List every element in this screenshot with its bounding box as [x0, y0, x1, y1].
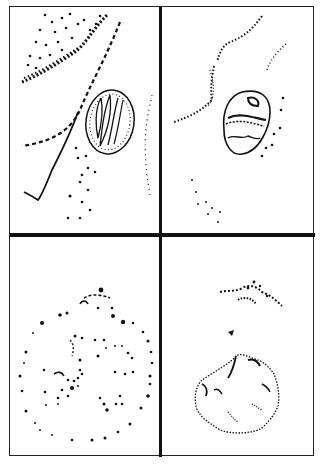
panel-top-right	[162, 0, 322, 234]
specimen-figure	[0, 0, 322, 464]
polygon-mass	[195, 355, 279, 433]
egg-shape	[82, 87, 138, 157]
horizontal-divider	[9, 233, 315, 237]
vertical-divider	[159, 6, 162, 457]
panel-top-left	[0, 0, 160, 234]
panel-bottom-right	[162, 236, 322, 464]
panel-bottom-left	[0, 236, 160, 464]
